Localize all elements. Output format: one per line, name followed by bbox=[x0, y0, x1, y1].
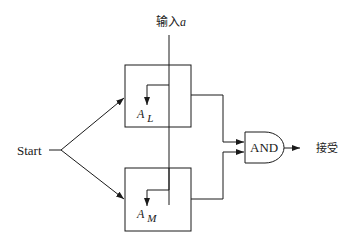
start-arrow-bottom bbox=[61, 150, 124, 199]
input-label: 输入a bbox=[156, 14, 186, 29]
product-automaton-diagram: 输入a AL AM Start AND 接受 bbox=[0, 0, 350, 247]
automaton-label-bottom: AM bbox=[136, 207, 157, 224]
output-line-top bbox=[191, 95, 244, 142]
start-label: Start bbox=[17, 143, 42, 158]
start-arrow-top bbox=[61, 98, 124, 150]
and-gate-label: AND bbox=[250, 140, 278, 155]
input-arrow-top bbox=[147, 85, 169, 105]
automaton-box-bottom bbox=[125, 168, 191, 231]
automaton-label-top: AL bbox=[136, 107, 153, 124]
automaton-box-top bbox=[125, 65, 191, 127]
accept-label: 接受 bbox=[316, 142, 338, 154]
output-line-bottom bbox=[191, 152, 244, 199]
input-arrow-bottom bbox=[147, 168, 169, 206]
